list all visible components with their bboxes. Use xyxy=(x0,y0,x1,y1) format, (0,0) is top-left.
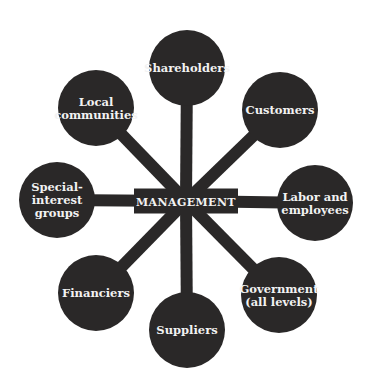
node-label: Shareholders xyxy=(144,61,230,75)
node-label: Suppliers xyxy=(156,323,217,337)
stakeholder-diagram: ShareholdersCustomersLabor andemployeesG… xyxy=(0,0,374,392)
node-shareholders: Shareholders xyxy=(144,30,230,106)
node-label: employees xyxy=(281,203,348,217)
node-suppliers: Suppliers xyxy=(149,292,225,368)
management-label: MANAGEMENT xyxy=(136,196,236,209)
node-label: Customers xyxy=(246,103,315,117)
node-label: Financiers xyxy=(62,286,130,300)
node-financiers: Financiers xyxy=(58,255,134,331)
node-label: Special- xyxy=(31,180,83,194)
node-labor: Labor andemployees xyxy=(277,165,353,241)
node-label: groups xyxy=(35,206,80,220)
node-label: Labor and xyxy=(282,190,347,204)
node-label: (all levels) xyxy=(245,295,313,309)
node-special-interest: Special-interestgroups xyxy=(19,162,95,238)
management-hub: MANAGEMENT xyxy=(134,189,238,214)
node-label: communities xyxy=(54,108,138,122)
node-label: Government xyxy=(239,282,319,296)
node-label: interest xyxy=(32,193,83,207)
node-customers: Customers xyxy=(242,72,318,148)
node-label: Local xyxy=(79,95,114,109)
